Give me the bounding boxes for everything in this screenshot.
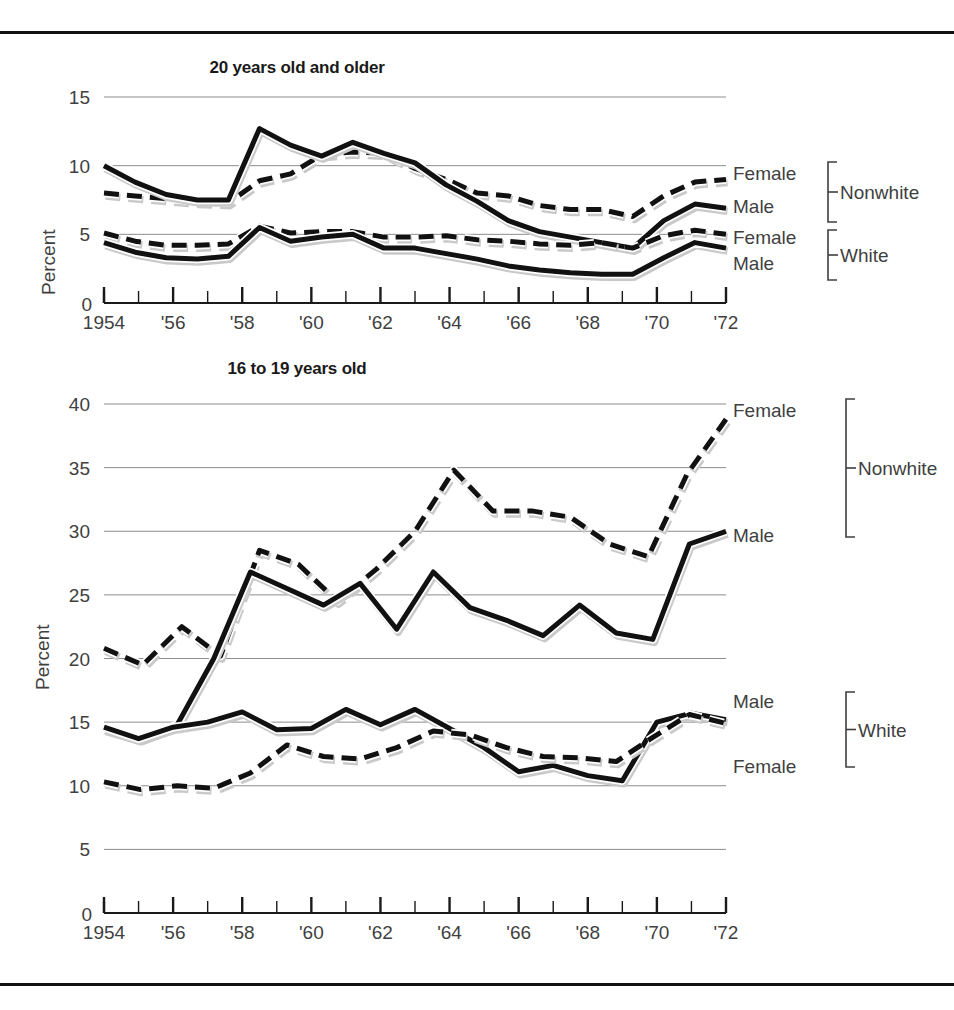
series-nonwhite-male xyxy=(104,129,728,252)
y-tick-label: 30 xyxy=(69,521,90,542)
chart-20-years-and-older: 20 years old and older Percent 510150195… xyxy=(0,40,954,360)
x-tick-label: '64 xyxy=(437,312,462,333)
legend-label: Male xyxy=(733,196,774,217)
series-shadow xyxy=(106,422,728,668)
legend-group-label: Nonwhite xyxy=(840,182,919,203)
legend-group-label: Nonwhite xyxy=(858,458,937,479)
series-line xyxy=(104,419,726,665)
x-tick-label: '70 xyxy=(645,922,670,943)
legend-label: Female xyxy=(733,163,796,184)
x-tick-label: '70 xyxy=(645,312,670,333)
x-tick-label: '58 xyxy=(230,312,255,333)
y-tick-label: 15 xyxy=(69,712,90,733)
y-tick-label: 10 xyxy=(69,156,90,177)
top-horizontal-rule xyxy=(0,31,954,34)
x-tick-label: '56 xyxy=(161,312,186,333)
x-tick-label: '72 xyxy=(714,922,739,943)
x-tick-label: '68 xyxy=(575,312,600,333)
y-tick-label: 20 xyxy=(69,649,90,670)
x-tick-label: '56 xyxy=(161,922,186,943)
legend-group-label: White xyxy=(840,245,889,266)
x-tick-label: '66 xyxy=(506,312,531,333)
x-tick-label: '64 xyxy=(437,922,462,943)
bottom-horizontal-rule xyxy=(0,983,954,986)
y-tick-label: 10 xyxy=(69,776,90,797)
x-tick-label: '60 xyxy=(299,312,324,333)
x-tick-label: '62 xyxy=(368,312,393,333)
y-tick-label: 25 xyxy=(69,585,90,606)
series-shadow xyxy=(106,132,728,252)
chart-16-to-19-years: 16 to 19 years old Percent 5101520253035… xyxy=(0,355,954,955)
y-tick-label: 15 xyxy=(69,87,90,108)
legend-group-label: White xyxy=(858,720,907,741)
legend-label: Male xyxy=(733,691,774,712)
x-tick-label: '62 xyxy=(368,922,393,943)
y-tick-label: 40 xyxy=(69,394,90,415)
x-tick-label: '66 xyxy=(506,922,531,943)
plot-area-top: 5101501954'56'58'60'62'64'66'68'70'72Fem… xyxy=(0,40,954,370)
legend-label: Female xyxy=(733,756,796,777)
legend-label: Female xyxy=(733,227,796,248)
legend-label: Male xyxy=(733,253,774,274)
y-tick-label: 35 xyxy=(69,458,90,479)
x-tick-label: '72 xyxy=(714,312,739,333)
plot-area-bottom: 51015202530354001954'56'58'60'62'64'66'6… xyxy=(0,355,954,955)
y-tick-label: 5 xyxy=(79,224,90,245)
y-tick-label: 5 xyxy=(79,839,90,860)
legend-label: Female xyxy=(733,400,796,421)
x-tick-label: '58 xyxy=(230,922,255,943)
series-halo xyxy=(104,419,726,665)
x-tick-label: '68 xyxy=(575,922,600,943)
x-tick-label: '60 xyxy=(299,922,324,943)
series-halo xyxy=(104,129,726,249)
series-line xyxy=(104,129,726,249)
series-nonwhite-female xyxy=(104,419,728,668)
x-tick-label: 1954 xyxy=(83,312,126,333)
x-tick-label: 1954 xyxy=(83,922,126,943)
legend-label: Male xyxy=(733,525,774,546)
